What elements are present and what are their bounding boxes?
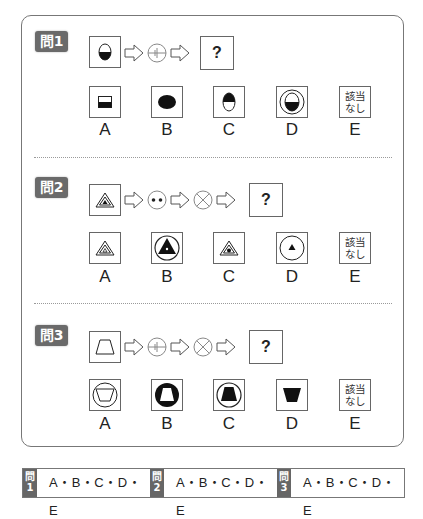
answer-choices[interactable]: A・B・C・D・E bbox=[291, 469, 404, 497]
divider bbox=[34, 303, 392, 304]
p3-answer-slot: ? bbox=[249, 330, 283, 364]
option-label: B bbox=[151, 267, 183, 287]
p3-option-c[interactable] bbox=[213, 379, 245, 411]
oval-top-filled-icon bbox=[221, 91, 237, 113]
circle-x-operator-icon bbox=[192, 336, 214, 358]
p2-option-a[interactable] bbox=[89, 232, 121, 264]
circle-filled-triangle-dot-icon bbox=[153, 234, 181, 262]
circle-x-operator-icon bbox=[192, 189, 214, 211]
option-label: A bbox=[89, 414, 121, 434]
p1-option-a[interactable] bbox=[89, 86, 121, 118]
filled-inverted-trapezoid-icon bbox=[281, 386, 303, 404]
half-filled-oval-icon bbox=[95, 41, 115, 63]
circle-small-filled-triangle-icon bbox=[278, 234, 306, 262]
option-label: C bbox=[213, 267, 245, 287]
filled-oval-icon bbox=[156, 94, 178, 110]
arrow-icon bbox=[170, 338, 190, 356]
answer-sheet: 問1 A・B・C・D・E 問2 A・B・C・D・E 問3 A・B・C・D・E bbox=[22, 468, 405, 498]
square-bottom-filled-icon bbox=[98, 96, 112, 108]
option-label: D bbox=[276, 120, 308, 140]
option-label: B bbox=[151, 414, 183, 434]
problem-3-tag: 問3 bbox=[35, 325, 68, 346]
p1-start-figure bbox=[89, 36, 121, 68]
p1-option-b[interactable] bbox=[151, 86, 183, 118]
p2-start-figure bbox=[89, 184, 121, 216]
trapezoid-outline-icon bbox=[94, 338, 116, 356]
p2-option-c[interactable] bbox=[213, 232, 245, 264]
p3-option-a[interactable] bbox=[89, 379, 121, 411]
circle-oval-bottom-filled-icon bbox=[278, 88, 306, 116]
answer-tag: 問1 bbox=[23, 469, 37, 497]
filled-circle-white-trapezoid-icon bbox=[153, 381, 181, 409]
answer-choices[interactable]: A・B・C・D・E bbox=[164, 469, 277, 497]
p1-option-d[interactable] bbox=[276, 86, 308, 118]
p3-option-e[interactable]: 該当なし bbox=[339, 379, 371, 411]
p1-option-e[interactable]: 該当なし bbox=[339, 86, 371, 118]
circle-two-dots-operator-icon bbox=[146, 189, 168, 211]
triangle-filled-inner-icon bbox=[95, 191, 115, 209]
divider bbox=[34, 157, 392, 158]
answer-cell-1[interactable]: 問1 A・B・C・D・E bbox=[23, 469, 150, 497]
p2-option-d[interactable] bbox=[276, 232, 308, 264]
p2-option-b[interactable] bbox=[151, 232, 183, 264]
p1-option-c[interactable] bbox=[213, 86, 245, 118]
option-label: B bbox=[151, 120, 183, 140]
p3-start-figure bbox=[89, 331, 121, 363]
arrow-icon bbox=[216, 191, 236, 209]
answer-choices[interactable]: A・B・C・D・E bbox=[37, 469, 150, 497]
p3-option-d[interactable] bbox=[276, 379, 308, 411]
triangle-small-outline-inner-icon bbox=[95, 239, 115, 257]
arrow-icon bbox=[170, 191, 190, 209]
answer-cell-3[interactable]: 問3 A・B・C・D・E bbox=[277, 469, 404, 497]
arrow-icon bbox=[124, 338, 144, 356]
arrow-icon bbox=[124, 191, 144, 209]
option-label: A bbox=[89, 120, 121, 140]
problem-1-tag: 問1 bbox=[35, 31, 68, 52]
arrow-icon bbox=[124, 44, 144, 62]
option-label: A bbox=[89, 267, 121, 287]
option-label: D bbox=[276, 414, 308, 434]
p2-option-e[interactable]: 該当なし bbox=[339, 232, 371, 264]
problem-2-tag: 問2 bbox=[35, 177, 68, 198]
option-label: C bbox=[213, 120, 245, 140]
circle-split-operator-icon bbox=[146, 42, 168, 64]
option-label: D bbox=[276, 267, 308, 287]
p2-answer-slot: ? bbox=[249, 183, 283, 217]
option-label: E bbox=[339, 414, 371, 434]
circle-inverted-trapezoid-icon bbox=[91, 381, 119, 409]
arrow-icon bbox=[216, 338, 236, 356]
option-label: E bbox=[339, 267, 371, 287]
circle-filled-trapezoid-icon bbox=[215, 381, 243, 409]
answer-tag: 問2 bbox=[150, 469, 164, 497]
option-label: E bbox=[339, 120, 371, 140]
option-label: C bbox=[213, 414, 245, 434]
answer-tag: 問3 bbox=[277, 469, 291, 497]
p3-option-b[interactable] bbox=[151, 379, 183, 411]
circle-split-operator-icon bbox=[146, 336, 168, 358]
arrow-icon bbox=[170, 44, 190, 62]
p1-answer-slot: ? bbox=[200, 36, 234, 70]
triangle-with-dot-icon bbox=[219, 239, 239, 257]
answer-cell-2[interactable]: 問2 A・B・C・D・E bbox=[150, 469, 277, 497]
